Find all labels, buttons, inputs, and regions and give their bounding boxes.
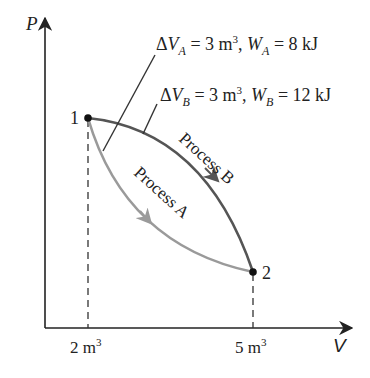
x-tick-5m3: 5 m3	[235, 336, 267, 357]
annotation-process-b: ΔVB = 3 m3, WB = 12 kJ	[160, 84, 331, 109]
state-point-1	[84, 114, 92, 122]
pv-diagram: P V 2 m3 5 m3 Process B Process A ΔVA = …	[0, 0, 370, 378]
annotation-process-a: ΔVA = 3 m3, WA = 8 kJ	[156, 33, 318, 58]
x-tick-2m3: 2 m3	[70, 336, 102, 357]
state-point-2	[249, 268, 257, 276]
state-point-1-label: 1	[70, 108, 79, 128]
leader-line-b	[143, 104, 157, 134]
leader-line-a	[103, 55, 155, 151]
state-point-2-label: 2	[262, 263, 271, 283]
x-axis-label: V	[333, 335, 348, 356]
y-axis-label: P	[25, 13, 38, 34]
process-a-arrow-icon	[140, 211, 148, 220]
